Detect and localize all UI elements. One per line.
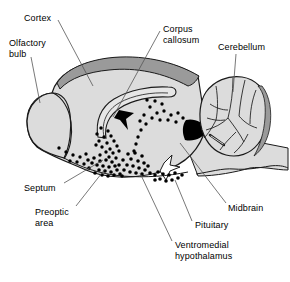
label-midbrain: Midbrain: [228, 203, 263, 214]
label-preoptic-area-line2: area: [35, 218, 53, 228]
label-preoptic-area: Preopticarea: [35, 207, 69, 228]
label-olfactory-bulb-line2: bulb: [9, 49, 26, 59]
cerebellum-region: [200, 77, 271, 156]
label-ventromedial-hypothalamus: Ventromedialhypothalamus: [175, 240, 232, 261]
label-corpus-callosum-line1: Corpus: [163, 24, 193, 34]
label-pituitary: Pituitary: [195, 220, 228, 231]
leader-pituitary: [175, 180, 192, 221]
label-olfactory-bulb: Olfactorybulb: [9, 38, 46, 59]
label-septum: Septum: [24, 183, 56, 194]
label-cerebellum: Cerebellum: [218, 42, 265, 53]
label-preoptic-area-line1: Preoptic: [35, 207, 69, 217]
label-corpus-callosum: Corpuscallosum: [163, 24, 199, 45]
label-ventromedial-hypothalamus-line1: Ventromedial: [175, 240, 229, 250]
leader-olfactory-bulb: [31, 57, 40, 103]
label-corpus-callosum-line2: callosum: [163, 35, 199, 45]
brain-body: [27, 57, 288, 183]
label-olfactory-bulb-line1: Olfactory: [9, 38, 46, 48]
leader-preoptic-area: [76, 169, 105, 206]
leader-ventromedial-hypothalamus: [140, 173, 172, 241]
brain-diagram-figure: Cortex Olfactorybulb Corpuscallosum Cere…: [0, 0, 290, 282]
label-ventromedial-hypothalamus-line2: hypothalamus: [175, 251, 232, 261]
label-cortex: Cortex: [24, 13, 51, 24]
cerebellum-outline: [200, 77, 269, 156]
